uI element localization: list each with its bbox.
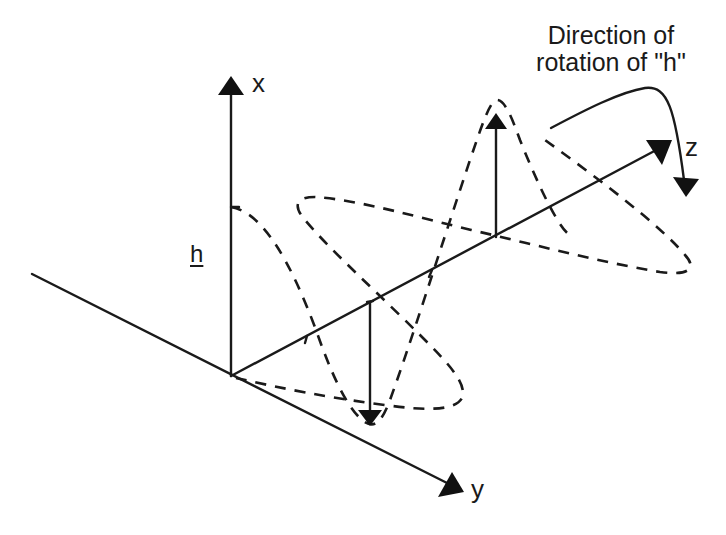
z-axis-label: z xyxy=(685,134,698,160)
field-vector-down-arrowhead xyxy=(358,410,382,426)
wave-x-plane xyxy=(231,100,570,424)
polarization-waves xyxy=(231,100,691,424)
rotation-arrowhead xyxy=(673,177,699,197)
rotation-direction-arrow xyxy=(551,88,699,197)
x-axis-arrowhead xyxy=(218,76,244,95)
x-axis xyxy=(218,76,244,376)
y-axis xyxy=(32,274,464,497)
y-axis-label: y xyxy=(471,476,484,502)
field-vector-up-arrowhead xyxy=(485,113,507,129)
polarization-diagram xyxy=(0,0,726,535)
field-vector-up xyxy=(485,113,507,237)
h-vector-label: h xyxy=(190,242,203,266)
y-axis-arrowhead xyxy=(438,472,464,497)
z-axis xyxy=(231,140,672,376)
field-vector-down xyxy=(358,302,382,426)
rotation-caption-line2: rotation of "h" xyxy=(506,49,716,76)
x-axis-label: x xyxy=(252,70,265,96)
rotation-caption: Direction of rotation of "h" xyxy=(506,22,716,76)
rotation-caption-line1: Direction of xyxy=(506,22,716,49)
